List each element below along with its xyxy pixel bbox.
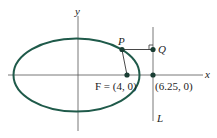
point-Q-label: Q [158,44,166,55]
point-Q [150,47,155,52]
ellipse-diagram: y x P Q F = (4, 0) (6.25, 0) L [0,0,217,138]
diagram-canvas [0,0,217,138]
point-F [124,72,129,77]
y-axis-label: y [75,6,80,17]
directrix-label: L [157,113,163,124]
focus-label: F = (4, 0) [95,81,137,92]
point-P-label: P [118,36,125,47]
directrix-point-label: (6.25, 0) [155,81,193,92]
point-directrix [150,72,155,77]
x-axis-label: x [205,69,210,80]
point-P [119,47,124,52]
